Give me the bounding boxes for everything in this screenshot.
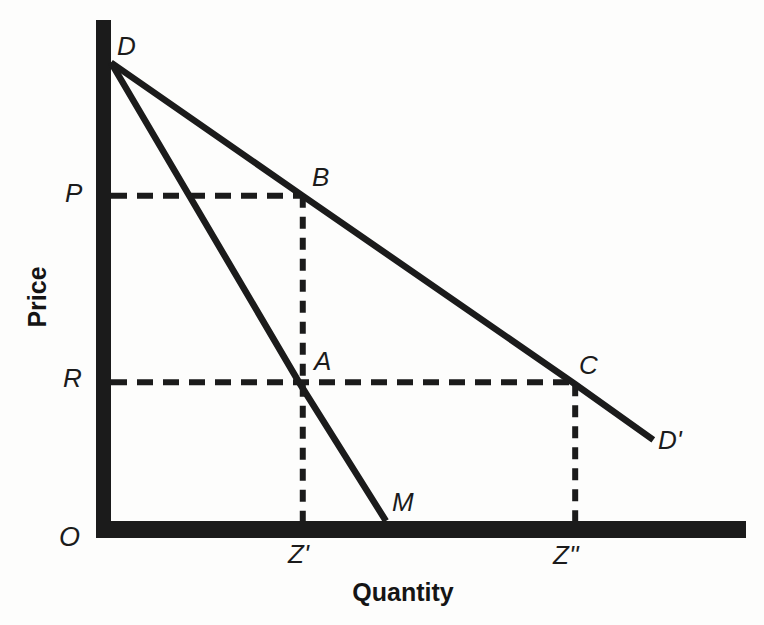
x-axis-title: Quantity xyxy=(352,580,453,605)
x-tick-label-z-prime: Z' xyxy=(288,541,309,567)
point-label-c: C xyxy=(579,352,598,378)
y-axis-title: Price xyxy=(25,266,50,327)
point-label-a: A xyxy=(314,348,331,374)
figure: D B A C M D' P R O Z' Z'' Price Quantity xyxy=(0,0,764,625)
y-axis-bar xyxy=(96,20,111,538)
y-tick-label-r: R xyxy=(63,365,82,391)
y-tick-label-p: P xyxy=(65,180,82,206)
point-label-d: D xyxy=(117,33,136,59)
figure-canvas xyxy=(0,0,764,625)
origin-label: O xyxy=(59,524,80,551)
x-tick-label-z-double-prime: Z'' xyxy=(553,542,579,568)
point-label-b: B xyxy=(312,164,329,190)
point-label-m: M xyxy=(392,489,414,515)
point-label-d-prime: D' xyxy=(658,427,682,453)
series-DM-line xyxy=(111,63,386,521)
x-axis-bar xyxy=(96,521,746,538)
